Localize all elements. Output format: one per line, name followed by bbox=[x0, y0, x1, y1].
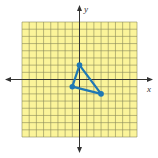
vertex-point bbox=[70, 84, 76, 90]
y-axis-top-arrow-icon bbox=[77, 5, 82, 11]
x-axis-right-arrow-icon bbox=[147, 77, 153, 82]
vertex-point bbox=[77, 62, 83, 68]
x-axis-left-arrow-icon bbox=[5, 77, 11, 82]
vertex-point bbox=[98, 91, 104, 97]
x-axis-label: x bbox=[146, 84, 151, 94]
y-axis-bottom-arrow-icon bbox=[77, 147, 82, 153]
coordinate-plane: y x bbox=[0, 0, 158, 158]
y-axis-label: y bbox=[83, 4, 88, 14]
